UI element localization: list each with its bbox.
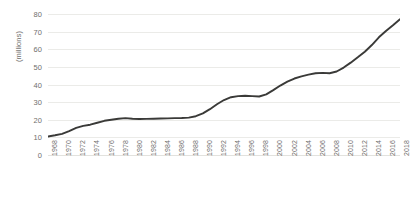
x-tick-label-2010: 2010 — [347, 140, 354, 156]
x-tick-label-1998: 1998 — [262, 140, 269, 156]
y-tick-label-60: 60 — [24, 45, 42, 54]
x-tick-label-1992: 1992 — [220, 140, 227, 156]
x-tick-label-2018: 2018 — [403, 140, 410, 156]
x-tick-label-2006: 2006 — [319, 140, 326, 156]
y-tick-label-40: 40 — [24, 80, 42, 89]
x-tick-label-1988: 1988 — [192, 140, 199, 156]
x-tick-label-1968: 1968 — [51, 140, 58, 156]
y-axis-tick-labels: 01020304050607080 — [24, 0, 42, 205]
x-tick-label-1970: 1970 — [65, 140, 72, 156]
y-tick-label-10: 10 — [24, 133, 42, 142]
x-tick-label-1994: 1994 — [234, 140, 241, 156]
x-tick-label-2000: 2000 — [276, 140, 283, 156]
series-line — [48, 14, 400, 155]
x-tick-label-1980: 1980 — [136, 140, 143, 156]
x-tick-label-1976: 1976 — [108, 140, 115, 156]
y-tick-label-50: 50 — [24, 62, 42, 71]
y-axis-title: (millions) — [14, 2, 23, 62]
plot-area — [48, 14, 400, 155]
x-axis-tick-labels: 1968197019721974197619781980198219841986… — [48, 156, 400, 205]
x-tick-label-1972: 1972 — [79, 140, 86, 156]
x-tick-label-1990: 1990 — [206, 140, 213, 156]
x-tick-label-2008: 2008 — [333, 140, 340, 156]
x-tick-label-1974: 1974 — [93, 140, 100, 156]
y-tick-label-0: 0 — [24, 151, 42, 160]
x-tick-label-2014: 2014 — [375, 140, 382, 156]
y-tick-label-80: 80 — [24, 10, 42, 19]
line-chart: (millions) 01020304050607080 19681970197… — [0, 0, 411, 205]
x-tick-label-2002: 2002 — [291, 140, 298, 156]
x-tick-label-2016: 2016 — [389, 140, 396, 156]
y-tick-label-20: 20 — [24, 115, 42, 124]
x-tick-label-2012: 2012 — [361, 140, 368, 156]
x-tick-label-1978: 1978 — [122, 140, 129, 156]
x-tick-label-1982: 1982 — [150, 140, 157, 156]
x-tick-label-1986: 1986 — [178, 140, 185, 156]
y-tick-label-70: 70 — [24, 27, 42, 36]
x-tick-label-1996: 1996 — [248, 140, 255, 156]
y-tick-label-30: 30 — [24, 98, 42, 107]
x-tick-label-1984: 1984 — [164, 140, 171, 156]
x-tick-label-2004: 2004 — [305, 140, 312, 156]
